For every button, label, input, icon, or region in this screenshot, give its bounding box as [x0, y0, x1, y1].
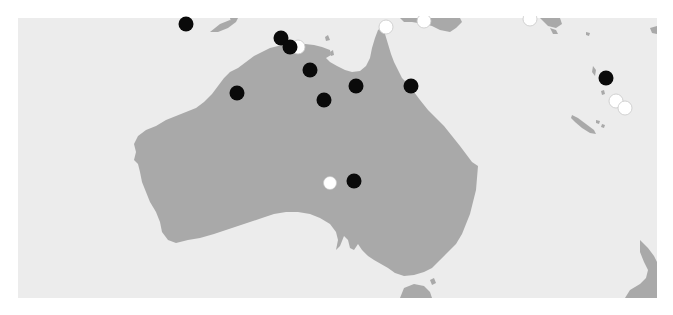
map-marker-white[interactable]: [324, 177, 337, 190]
map-marker-black[interactable]: [303, 63, 318, 78]
map-marker-black[interactable]: [347, 174, 362, 189]
map-marker-black[interactable]: [179, 17, 194, 32]
map-marker-black[interactable]: [283, 40, 298, 55]
map-marker-white[interactable]: [379, 20, 393, 34]
map-marker-white[interactable]: [618, 101, 632, 115]
bottom-margin: [0, 299, 673, 315]
right-margin: [658, 0, 673, 315]
map-marker-black[interactable]: [349, 79, 364, 94]
map-marker-black[interactable]: [317, 93, 332, 108]
top-margin: [0, 0, 673, 16]
map-marker-black[interactable]: [599, 71, 614, 86]
map-marker-black[interactable]: [230, 86, 245, 101]
map-marker-white[interactable]: [417, 14, 431, 28]
map-marker-black[interactable]: [404, 79, 419, 94]
map-canvas: [0, 0, 673, 315]
